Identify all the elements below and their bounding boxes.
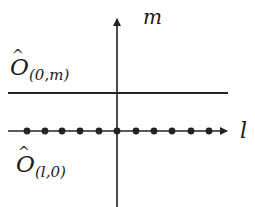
svg-text:^: ^ bbox=[18, 144, 30, 160]
lattice-dot bbox=[188, 128, 195, 135]
operator-label-0-m: O ^ (0,m) bbox=[10, 47, 69, 84]
lattice-dot bbox=[77, 128, 84, 135]
svg-text:(0,m): (0,m) bbox=[29, 66, 69, 84]
svg-text:(l,0): (l,0) bbox=[35, 163, 66, 181]
diagram-canvas: m l O ^ (0,m) O ^ (l,0) bbox=[0, 0, 255, 207]
m-axis-label: m bbox=[143, 5, 162, 29]
svg-text:^: ^ bbox=[12, 47, 24, 63]
lattice-dot bbox=[24, 128, 31, 135]
lattice-dot bbox=[169, 128, 176, 135]
lattice-dot bbox=[59, 128, 66, 135]
lattice-dot bbox=[96, 128, 103, 135]
operator-label-l-0: O ^ (l,0) bbox=[16, 144, 66, 181]
l-axis-label: l bbox=[240, 118, 247, 143]
lattice-dot bbox=[133, 128, 140, 135]
lattice-dot bbox=[151, 128, 158, 135]
lattice-dot bbox=[206, 128, 213, 135]
lattice-dot bbox=[42, 128, 49, 135]
lattice-dot bbox=[114, 128, 121, 135]
